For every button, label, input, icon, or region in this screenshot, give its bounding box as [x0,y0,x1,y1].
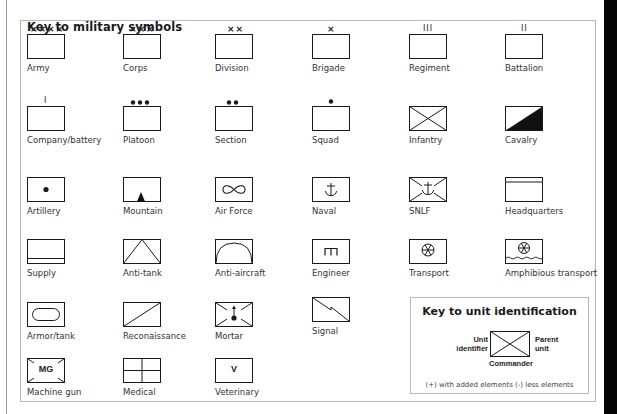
symbol-label: Machine gun [27,387,81,397]
symbol-label: Reconaissance [123,331,186,341]
symbol-artillery: Artillery [27,170,127,230]
symbol-label: Supply [27,268,56,278]
symbol-reconnaissance: Reconaissance [123,295,223,355]
transport-symbol-icon [409,232,449,262]
symbol-label: Artillery [27,206,60,216]
symbol-label: Cavalry [505,135,537,145]
symbol-squad: Squad [312,99,412,159]
echelon-marker: III [423,24,433,33]
unit-identification-key: Key to unit identification Unit identifi… [410,297,589,394]
symbol-company: I Company/battery [27,99,127,159]
symbol-label: Infantry [409,135,442,145]
symbol-medical: Medical [123,357,223,414]
symbol-label: Naval [312,206,336,216]
page-edge-rule [6,0,7,414]
armor-symbol-icon [27,295,67,325]
symbol-label: Air Force [215,206,252,216]
symbol-veterinary: V Veterinary [215,357,315,414]
symbol-cavalry: Cavalry [505,99,605,159]
symbol-label: Regiment [409,63,450,73]
symbol-label: Amphibious transport [505,268,597,278]
echelon-marker: I [44,96,46,105]
symbol-division: ×× Division [215,27,315,87]
commander-label: Commander [411,359,611,368]
echelon-marker: ×× [227,24,244,34]
cavalry-symbol-icon [505,99,545,129]
page-edge-shadow [604,0,617,414]
echelon-marker: ×××× [30,24,64,34]
anchor-icon [423,182,434,195]
anti-aircraft-symbol-icon [215,232,255,262]
anti-tank-symbol-icon [123,232,163,262]
symbol-label: Battalion [505,63,543,73]
symbol-label: Medical [123,387,156,397]
symbol-label: Platoon [123,135,155,145]
symbol-brigade: × Brigade [312,27,412,87]
wheel-icon [422,244,434,256]
symbol-label: Veterinary [215,387,259,397]
infantry-symbol-icon [409,99,449,129]
snlf-symbol-icon [409,170,449,200]
unit-identifier-label: Unit identifier [451,335,488,353]
symbol-anti-tank: Anti-tank [123,232,223,292]
echelon-marker: ××× [129,24,155,34]
symbol-label: Mortar [215,331,243,341]
unit-key-footnote: (+) with added elements (-) less element… [411,381,588,389]
symbol-armor: Armor/tank [27,295,127,355]
symbol-label: SNLF [409,206,430,216]
symbol-text: V [215,364,253,374]
symbol-anti-aircraft: Anti-aircraft [215,232,315,292]
symbol-label: Division [215,63,249,73]
symbol-label: Signal [312,326,338,336]
symbol-label: Section [215,135,247,145]
parent-unit-label: Parent unit [535,335,558,353]
engineer-symbol-icon [312,232,352,262]
wheel-icon [519,243,530,254]
reconnaissance-symbol-icon [123,295,163,325]
medical-symbol-icon [123,357,163,387]
symbol-label: Squad [312,135,339,145]
symbol-battalion: II Battalion [505,27,605,87]
symbol-engineer: Engineer [312,232,412,292]
symbol-label: Armor/tank [27,331,75,341]
symbol-army: ×××× Army [27,27,127,87]
symbol-platoon: Platoon [123,99,223,159]
symbol-label: Corps [123,63,147,73]
symbol-snlf: SNLF [409,170,509,230]
symbol-label: Mountain [123,206,163,216]
company-symbol-icon [27,99,67,129]
platoon-symbol-icon [123,99,163,129]
echelon-marker: × [327,24,335,34]
symbol-label: Engineer [312,268,350,278]
waves-icon [506,257,543,259]
symbol-regiment: III Regiment [409,27,509,87]
symbol-signal: Signal [312,290,412,350]
headquarters-symbol-icon [505,170,545,200]
echelon-marker: II [521,24,528,33]
symbol-infantry: Infantry [409,99,509,159]
supply-symbol-icon [27,232,67,262]
symbol-mortar: Mortar [215,295,315,355]
symbol-mountain: Mountain [123,170,223,230]
symbol-machine-gun: MG Machine gun [27,357,127,414]
anchor-icon [326,183,337,196]
mortar-symbol-icon [215,295,255,325]
signal-symbol-icon [312,290,352,320]
symbol-supply: Supply [27,232,127,292]
artillery-symbol-icon [27,170,67,200]
symbol-label: Company/battery [27,135,101,145]
unit-identification-symbol-icon [490,331,532,359]
symbol-label: Brigade [312,63,345,73]
symbol-transport: Transport [409,232,509,292]
symbol-corps: ××× Corps [123,27,223,87]
amphibious-transport-symbol-icon [505,232,545,262]
symbol-text: MG [27,364,65,374]
symbol-naval: Naval [312,170,412,230]
symbol-label: Anti-aircraft [215,268,265,278]
symbol-label: Headquarters [505,206,563,216]
symbol-air-force: Air Force [215,170,315,230]
mountain-symbol-icon [123,170,163,200]
air-force-symbol-icon [215,170,255,200]
symbol-label: Army [27,63,49,73]
squad-symbol-icon [312,99,352,129]
